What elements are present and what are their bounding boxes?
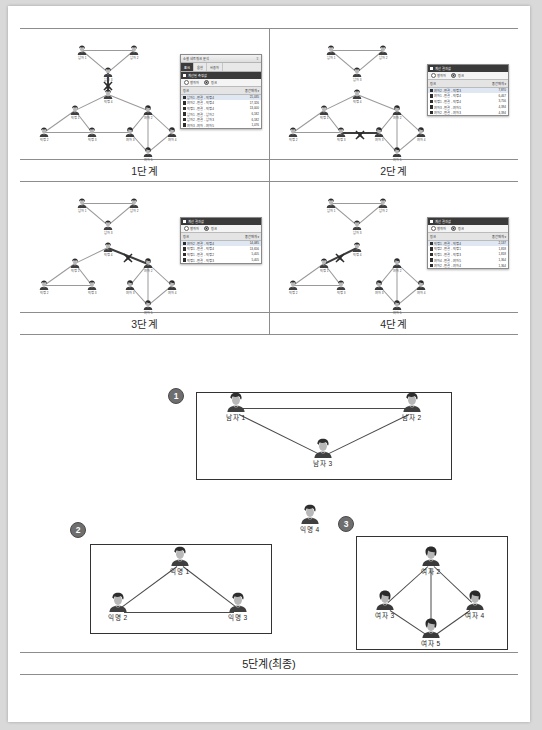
analysis-dialog[interactable]: 계산 결과값 행위자 링크 링크 중간매개 ▾ 여자2 - 연결 - 익명4 1… (180, 217, 262, 264)
table-row[interactable]: 여자3 - 여자 - 여자5 1,076 (181, 122, 261, 128)
network-node[interactable]: 여자 4 (164, 276, 180, 295)
network-node[interactable]: 남자 3 (100, 216, 116, 235)
network-canvas-step2[interactable]: 남자 1 남자 2 남자 3 익명 4 익명 1 익명 2 익명 3 여자 2 (269, 28, 518, 159)
network-node[interactable]: 여자 3 (122, 123, 138, 142)
radio-option-1[interactable]: 링크 (451, 226, 463, 231)
cluster-node[interactable]: 익명 1 (163, 545, 197, 579)
network-node[interactable]: 여자 3 (371, 276, 387, 295)
dialog-section-header[interactable]: 계산 결과값 (181, 218, 261, 225)
network-node[interactable]: 남자 2 (375, 194, 391, 213)
table-row[interactable]: 남자1 - 연결 - 남자2 6,182 (181, 111, 261, 117)
dialog-tab-1[interactable]: 옵션 (194, 63, 207, 71)
analysis-dialog[interactable]: 계산 결과값 행위자 링크 링크 중간매개 ▾ 여자2 - 연결 - 익명3 7… (427, 64, 509, 116)
dialog-tab-2[interactable]: 사용자 (207, 63, 223, 71)
analysis-dialog[interactable]: 계산 결과값 행위자 링크 링크 중간매개 ▾ 익명1 - 연결 - 익명4 2… (427, 217, 509, 269)
dialog-section-header[interactable]: 계산된 측정값 (181, 72, 261, 79)
network-node[interactable]: 여자 4 (413, 276, 429, 295)
network-node[interactable]: 익명 3 (84, 123, 100, 142)
table-row[interactable]: 여자2 - 연결 - 여자4 1,364 (428, 263, 508, 269)
network-node[interactable]: 여자 4 (413, 123, 429, 142)
network-node[interactable]: 익명 2 (285, 276, 301, 295)
network-node[interactable]: 여자 2 (389, 101, 405, 120)
table-header[interactable]: 링크 중간매개 ▾ (428, 232, 508, 241)
network-node[interactable]: 남자 3 (349, 216, 365, 235)
network-node[interactable]: 여자 3 (122, 276, 138, 295)
network-node[interactable]: 익명 3 (333, 123, 349, 142)
network-node[interactable]: 여자 3 (371, 123, 387, 142)
cluster-node[interactable]: 남자 1 (219, 391, 253, 425)
table-row[interactable]: 익명1 - 연결 - 익명2 5,405 (181, 252, 261, 258)
cluster-node[interactable]: 여자 4 (458, 589, 492, 623)
checkbox-icon[interactable] (183, 74, 186, 77)
radio-option-0[interactable]: 행위자 (431, 226, 446, 231)
network-node[interactable]: 익명 4 (349, 85, 365, 104)
network-node[interactable]: 남자 2 (126, 41, 142, 60)
network-canvas-step4[interactable]: 남자 1 남자 2 남자 3 익명 4 익명 1 익명 2 익명 3 여자 2 (269, 181, 518, 312)
network-canvas-step3[interactable]: 남자 1 남자 2 남자 3 익명 4 익명 1 익명 2 익명 3 여자 2 (20, 181, 269, 312)
network-node[interactable]: 여자 2 (389, 254, 405, 273)
network-node[interactable]: 여자 2 (140, 101, 156, 120)
table-row[interactable]: 여자1 - 연결 - 익명4 6,467 (428, 93, 508, 99)
radio-option-1[interactable]: 링크 (204, 80, 216, 85)
radio-option-1[interactable]: 링크 (204, 226, 216, 231)
dialog-section-header[interactable]: 계산 결과값 (428, 218, 508, 225)
table-header[interactable]: 링크 중간매개 ▾ (181, 232, 261, 241)
network-node[interactable]: 익명 1 (67, 101, 83, 120)
table-row[interactable]: 남자2 - 연결 - 남자3 6,182 (181, 117, 261, 123)
table-header[interactable]: 링크 중간매개 ▾ (428, 79, 508, 88)
radio-icon[interactable] (184, 226, 189, 231)
dialog-radio-group[interactable]: 행위자 링크 (181, 79, 261, 86)
table-row[interactable]: 여자3 - 연결 - 여자5 4,394 (428, 104, 508, 110)
table-row[interactable]: 여자2 - 연결 - 여자3 4,394 (428, 110, 508, 116)
cluster-node[interactable]: 여자 2 (414, 545, 448, 579)
analysis-dialog[interactable]: 소셜 네트워크 분석 ⇧표시옵션사용자 계산된 측정값 행위자 링크 링크 중간… (180, 54, 262, 129)
dialog-tabs[interactable]: 표시옵션사용자 (181, 63, 261, 72)
network-node[interactable]: 여자 2 (140, 254, 156, 273)
network-node[interactable]: 익명 2 (285, 123, 301, 142)
pin-icon[interactable]: ⇧ (256, 56, 259, 61)
radio-option-0[interactable]: 행위자 (184, 226, 199, 231)
dialog-tab-0[interactable]: 표시 (181, 63, 194, 71)
network-node[interactable]: 익명 1 (316, 101, 332, 120)
table-row[interactable]: 여자2 - 연결 - 익명4 14,085 (181, 241, 261, 247)
radio-option-0[interactable]: 행위자 (184, 80, 199, 85)
table-row[interactable]: 익명1 - 연결 - 익명4 13,000 (181, 106, 261, 112)
table-header[interactable]: 링크 중간매개 ▾ (181, 86, 261, 95)
network-node[interactable]: 익명 1 (316, 254, 332, 273)
table-row[interactable]: 익명1 - 연결 - 익명4 13,656 (181, 246, 261, 252)
cluster-node[interactable]: 남자 2 (395, 391, 429, 425)
network-node[interactable]: 익명 2 (36, 276, 52, 295)
network-node[interactable]: 남자 3 (349, 63, 365, 82)
cluster-node[interactable]: 익명 2 (101, 591, 135, 625)
cluster-node[interactable]: 익명 3 (221, 591, 255, 625)
network-node[interactable]: 여자 4 (164, 123, 180, 142)
table-row[interactable]: 익명1 - 연결 - 익명4 2,137 (428, 241, 508, 247)
dialog-radio-group[interactable]: 행위자 링크 (181, 225, 261, 232)
radio-icon[interactable] (451, 226, 456, 231)
dialog-radio-group[interactable]: 행위자 링크 (428, 72, 508, 79)
table-row[interactable]: 익명1 - 연결 - 익명4 3,756 (428, 99, 508, 105)
radio-icon[interactable] (204, 80, 209, 85)
cluster-node[interactable]: 여자 5 (414, 617, 448, 651)
network-node[interactable]: 남자 1 (74, 41, 90, 60)
table-row[interactable]: 익명1 - 연결 - 익명3 5,405 (181, 257, 261, 263)
network-node[interactable]: 익명 4 (100, 238, 116, 257)
network-node[interactable]: 남자 1 (74, 194, 90, 213)
network-canvas-step1[interactable]: 남자 1 남자 2 남자 3 익명 4 익명 1 익명 2 익명 3 여자 2 (20, 28, 269, 159)
radio-icon[interactable] (204, 226, 209, 231)
radio-option-0[interactable]: 행위자 (431, 73, 446, 78)
dialog-radio-group[interactable]: 행위자 링크 (428, 225, 508, 232)
network-node[interactable]: 남자 1 (323, 41, 339, 60)
cluster-node[interactable]: 익명 4 (293, 503, 327, 537)
radio-icon[interactable] (431, 226, 436, 231)
dialog-titlebar[interactable]: 소셜 네트워크 분석 ⇧ (181, 55, 261, 63)
network-node[interactable]: 남자 1 (323, 194, 339, 213)
checkbox-icon[interactable] (430, 67, 433, 70)
network-node[interactable]: 남자 2 (375, 41, 391, 60)
table-row[interactable]: 남자1 - 연결 - 익명4 21,035 (181, 95, 261, 101)
radio-icon[interactable] (184, 80, 189, 85)
radio-icon[interactable] (451, 73, 456, 78)
network-node[interactable]: 익명 2 (36, 123, 52, 142)
table-row[interactable]: 여자2 - 연결 - 익명3 7,870 (428, 88, 508, 94)
network-node[interactable]: 익명 4 (349, 238, 365, 257)
